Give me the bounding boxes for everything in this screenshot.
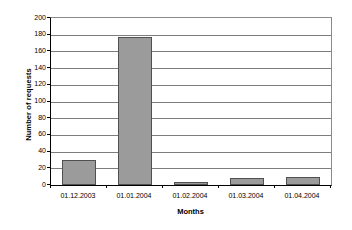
x-axis-tick-label: 01.02.2004 <box>162 191 218 200</box>
y-axis-tick-mark <box>47 84 50 85</box>
plot-area <box>50 17 332 186</box>
y-axis-tick-label: 100 <box>24 97 46 104</box>
bars-layer <box>51 18 331 185</box>
y-axis-tick-label: 40 <box>24 147 46 154</box>
x-axis-title: Months <box>50 207 331 216</box>
x-axis-tick-marks <box>50 185 332 189</box>
y-axis-tick-mark <box>47 117 50 118</box>
x-axis-tick-mark <box>106 185 107 188</box>
bar <box>118 37 153 185</box>
y-axis-tick-label: 180 <box>24 30 46 37</box>
x-axis-tick-mark <box>274 185 275 188</box>
x-axis-tick-mark <box>162 185 163 188</box>
x-axis-tick-mark <box>50 185 51 188</box>
y-axis-tick-label: 20 <box>24 164 46 171</box>
x-axis-tick-label: 01.03.2004 <box>218 191 274 200</box>
y-axis-tick-label: 120 <box>24 80 46 87</box>
bar <box>230 178 265 186</box>
y-axis-tick-label: 0 <box>24 181 46 188</box>
x-axis-tick-label: 01.04.2004 <box>274 191 330 200</box>
y-axis-tick-mark <box>47 151 50 152</box>
y-axis-tick-label: 160 <box>24 47 46 54</box>
y-axis-tick-mark <box>47 34 50 35</box>
y-axis-tick-mark <box>47 67 50 68</box>
y-axis-tick-label: 200 <box>24 14 46 21</box>
x-axis-tick-labels: 01.12.200301.01.200401.02.200401.03.2004… <box>50 191 331 203</box>
y-axis-tick-label: 140 <box>24 64 46 71</box>
y-axis-tick-mark <box>47 167 50 168</box>
y-axis-tick-labels: 200180160140120100806040200 <box>24 17 46 184</box>
y-axis-tick-label: 80 <box>24 114 46 121</box>
x-axis-tick-mark <box>330 185 331 188</box>
x-axis-tick-label: 01.12.2003 <box>50 191 106 200</box>
y-axis-tick-mark <box>47 50 50 51</box>
y-axis-tick-label: 60 <box>24 130 46 137</box>
y-axis-tick-mark <box>47 101 50 102</box>
bar <box>62 160 97 185</box>
y-axis-tick-mark <box>47 17 50 18</box>
y-axis-tick-mark <box>47 184 50 185</box>
bar <box>286 177 321 185</box>
y-axis-tick-mark <box>47 134 50 135</box>
x-axis-tick-mark <box>218 185 219 188</box>
bar-chart: Number of requests 200180160140120100806… <box>0 0 352 230</box>
x-axis-tick-label: 01.01.2004 <box>106 191 162 200</box>
